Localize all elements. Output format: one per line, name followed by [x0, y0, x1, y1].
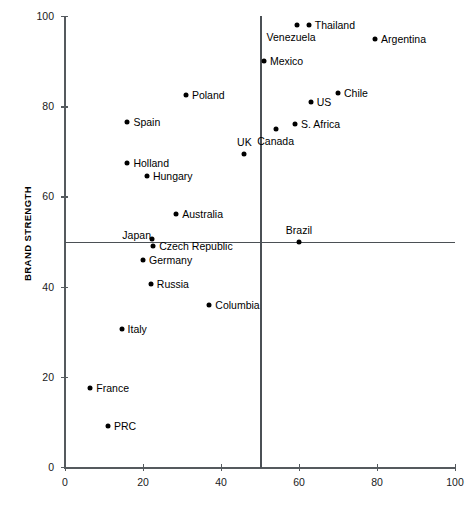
data-point-label: Columbia: [215, 299, 259, 310]
data-point[interactable]: [174, 212, 179, 217]
x-tick-label: 0: [62, 476, 68, 488]
y-tick-label: 80: [42, 100, 54, 112]
y-tick-mark: [61, 377, 68, 378]
data-point[interactable]: [293, 122, 298, 127]
y-tick-label: 20: [42, 371, 54, 383]
data-point[interactable]: [125, 119, 130, 124]
data-point[interactable]: [105, 424, 110, 429]
data-point-label: PRC: [114, 421, 136, 432]
data-point-label: Czech Republic: [159, 241, 233, 252]
data-point[interactable]: [297, 239, 302, 244]
data-point-label: Japan: [122, 230, 151, 241]
data-point-label: Poland: [192, 90, 225, 101]
x-tick-label: 20: [137, 476, 149, 488]
data-point-label: US: [317, 96, 332, 107]
data-point-label: UK: [237, 136, 252, 147]
data-point-label: France: [96, 383, 129, 394]
data-point-label: Brazil: [286, 224, 312, 235]
data-point[interactable]: [273, 126, 278, 131]
x-tick-mark: [455, 464, 456, 471]
x-tick-mark: [65, 464, 66, 471]
y-tick-label: 100: [36, 10, 54, 22]
data-point[interactable]: [151, 244, 156, 249]
plot-area: 020406080100 020406080100 ThailandVenezu…: [65, 16, 455, 467]
data-point[interactable]: [125, 160, 130, 165]
data-point[interactable]: [144, 174, 149, 179]
data-point-label: Australia: [182, 209, 223, 220]
x-tick-mark: [299, 464, 300, 471]
y-tick-mark: [61, 106, 68, 107]
data-point[interactable]: [141, 257, 146, 262]
data-point-label: Germany: [149, 254, 192, 265]
data-point[interactable]: [148, 282, 153, 287]
x-tick-label: 80: [371, 476, 383, 488]
data-point[interactable]: [261, 59, 266, 64]
data-point[interactable]: [207, 302, 212, 307]
data-point-label: Canada: [257, 136, 294, 147]
y-tick-mark: [61, 287, 68, 288]
data-point-label: S. Africa: [301, 119, 340, 130]
data-point-label: Hungary: [153, 171, 193, 182]
x-tick-label: 40: [215, 476, 227, 488]
brand-strength-scatter-chart: BRAND STRENGTH 020406080100 020406080100…: [0, 0, 473, 526]
data-point[interactable]: [242, 151, 247, 156]
x-tick-mark: [377, 464, 378, 471]
horizontal-reference-line: [65, 242, 455, 244]
data-point-label: Argentina: [381, 33, 426, 44]
y-tick-label: 0: [48, 461, 54, 473]
data-point[interactable]: [119, 327, 124, 332]
y-tick-label: 60: [42, 190, 54, 202]
y-tick-label: 40: [42, 281, 54, 293]
data-point[interactable]: [373, 36, 378, 41]
data-point-label: Chile: [344, 87, 368, 98]
data-point-label: Spain: [133, 117, 160, 128]
x-tick-mark: [143, 464, 144, 471]
x-tick-label: 60: [293, 476, 305, 488]
x-tick-label: 100: [446, 476, 464, 488]
data-point-label: Italy: [128, 324, 147, 335]
data-point-label: Mexico: [270, 56, 303, 67]
y-tick-mark: [61, 16, 68, 17]
data-point[interactable]: [88, 386, 93, 391]
y-axis-title: BRAND STRENGTH: [22, 154, 33, 314]
data-point-label: Holland: [133, 157, 169, 168]
data-point-label: Venezuela: [267, 32, 316, 43]
data-point[interactable]: [306, 23, 311, 28]
data-point[interactable]: [336, 90, 341, 95]
data-point-label: Thailand: [315, 20, 355, 31]
data-point[interactable]: [308, 99, 313, 104]
data-point[interactable]: [183, 92, 188, 97]
x-tick-mark: [221, 464, 222, 471]
data-point[interactable]: [295, 23, 300, 28]
y-tick-mark: [61, 196, 68, 197]
data-point-label: Russia: [157, 279, 189, 290]
